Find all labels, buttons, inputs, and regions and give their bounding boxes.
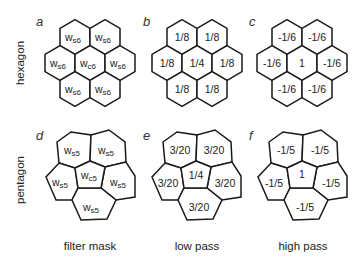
cell-value: -1/5 (265, 177, 283, 189)
cell-value: 1/8 (175, 83, 190, 95)
cell-value: -1/6 (308, 31, 326, 43)
cell-value: -1/6 (278, 83, 296, 95)
cell-value: -1/5 (322, 177, 340, 189)
panel-letter-f: f (249, 128, 254, 143)
panel-letter-d: d (36, 128, 44, 143)
cell-value-center: 1/4 (189, 169, 204, 181)
cell-value: 1/8 (175, 31, 190, 43)
panel-e-pentagon-low-pass: 3/20 3/20 3/20 1/4 3/20 3/20 (152, 130, 241, 220)
cell-value: 1/8 (160, 57, 175, 69)
column-label-high-pass: high pass (278, 240, 327, 252)
cell-value: -1/6 (323, 57, 341, 69)
panel-letter-e: e (143, 128, 150, 143)
column-label-filter-mask: filter mask (64, 240, 117, 252)
column-label-low-pass: low pass (175, 240, 220, 252)
panel-c-hexagon-high-pass: -1/6 -1/6 -1/6 1 -1/6 -1/6 -1/6 (257, 20, 347, 107)
cell-value-center: 1 (299, 168, 305, 180)
cell-value: 3/20 (170, 144, 191, 156)
panel-letter-a: a (36, 14, 43, 29)
panel-f-pentagon-high-pass: -1/5 -1/5 -1/5 1 -1/5 -1/5 (258, 130, 347, 220)
cell-value: -1/5 (311, 144, 329, 156)
cell-value: -1/6 (263, 57, 281, 69)
cell-value: 3/20 (189, 201, 210, 213)
panel-letter-b: b (143, 14, 150, 29)
row-label-hexagon: hexagon (14, 41, 26, 85)
panel-letter-c: c (249, 14, 256, 29)
cell-value: 1/8 (205, 31, 220, 43)
cell-value: 3/20 (204, 144, 225, 156)
cell-value: 3/20 (158, 177, 179, 189)
panel-a-hexagon-filter-mask: ws6 ws6 ws6 wc6 ws6 ws6 ws6 (45, 20, 135, 107)
row-label-pentagon: pentagon (14, 156, 26, 204)
cell-value: 1/8 (205, 83, 220, 95)
cell-value-center: 1 (299, 57, 305, 69)
cell-value: -1/6 (278, 31, 296, 43)
cell-value: -1/5 (296, 201, 314, 213)
panel-d-pentagon-filter-mask: ws5 ws5 ws5 wc5 ws5 ws5 (46, 130, 135, 220)
cell-value: 3/20 (215, 177, 236, 189)
filter-mask-diagram: hexagon pentagon a b c d e f ws6 ws6 ws6… (0, 0, 363, 266)
cell-value: -1/6 (308, 83, 326, 95)
cell-value: -1/5 (277, 144, 295, 156)
panel-b-hexagon-low-pass: 1/8 1/8 1/8 1/4 1/8 1/8 1/8 (152, 20, 242, 107)
cell-value: 1/8 (220, 57, 235, 69)
cell-value-center: 1/4 (190, 57, 205, 69)
